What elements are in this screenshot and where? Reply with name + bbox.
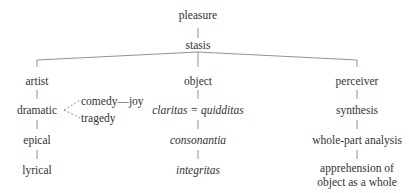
node-object: object [184, 75, 212, 88]
node-tragedy: tragedy [81, 112, 115, 125]
node-lyrical: lyrical [22, 164, 51, 177]
node-perceiver: perceiver [336, 75, 379, 88]
node-artist: artist [26, 75, 49, 88]
node-consonantia: consonantia [170, 134, 226, 147]
node-apprehension-line2: object as a whole [317, 176, 397, 189]
node-pleasure: pleasure [179, 9, 217, 22]
node-whole-part-analysis: whole-part analysis [312, 134, 402, 147]
node-integritas: integritas [176, 164, 220, 177]
aesthetic-stasis-diagram: pleasure stasis artist dramatic comedy—j… [0, 0, 409, 193]
node-synthesis: synthesis [336, 104, 378, 117]
node-apprehension-line1: apprehension of [320, 162, 394, 175]
node-comedy-joy: comedy—joy [81, 95, 144, 108]
node-dramatic: dramatic [17, 104, 57, 117]
node-stasis: stasis [186, 39, 211, 52]
node-claritas-quidditas: claritas = quidditas [152, 104, 243, 117]
node-epical: epical [23, 134, 50, 147]
